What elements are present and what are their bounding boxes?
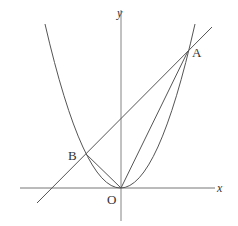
parabola bbox=[45, 24, 195, 188]
segment-oa bbox=[121, 51, 188, 188]
segment-ob bbox=[86, 154, 121, 188]
x-axis-label: x bbox=[216, 181, 223, 195]
line-ab bbox=[37, 27, 212, 203]
y-axis-label: y bbox=[116, 6, 123, 20]
point-b-label: B bbox=[68, 148, 77, 163]
diagram-canvas: A B O x y bbox=[0, 0, 238, 226]
origin-label: O bbox=[107, 192, 116, 207]
point-a-label: A bbox=[192, 45, 202, 60]
